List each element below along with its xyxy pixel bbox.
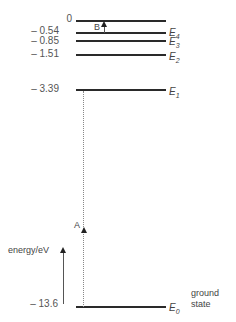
transition-b-line	[104, 26, 105, 33]
arrow-a-icon	[81, 227, 87, 233]
level-line-e1	[76, 89, 166, 91]
ground-label: ground	[191, 288, 219, 298]
energy-axis-line	[63, 253, 64, 304]
arrow-b-icon	[101, 21, 107, 27]
level-line-0	[76, 20, 166, 22]
level-e0-label: E0	[169, 302, 180, 315]
level-e3-label: E3	[169, 36, 180, 49]
transition-a-line	[83, 91, 84, 307]
level-line-e3	[76, 40, 166, 42]
transition-a-label: A	[74, 220, 80, 230]
level-e2-value: – 1.51	[0, 48, 59, 59]
state-label: state	[191, 299, 211, 309]
level-e0-value: – 13.6	[0, 298, 58, 309]
level-line-e0	[76, 306, 166, 308]
transition-b-label: B	[94, 22, 100, 32]
level-line-e4	[76, 32, 166, 34]
energy-axis-label: energy/eV	[8, 245, 49, 255]
level-e2-label: E2	[169, 51, 180, 64]
level-0-value: 0	[12, 13, 72, 24]
level-e1-value: – 3.39	[0, 83, 59, 94]
level-e3-value: – 0.85	[0, 35, 59, 46]
energy-axis-arrow-icon	[60, 247, 66, 253]
level-line-e2	[76, 54, 166, 56]
level-e1-label: E1	[169, 86, 180, 99]
